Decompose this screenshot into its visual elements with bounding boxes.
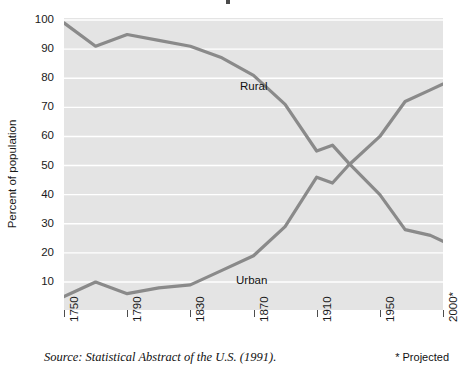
x-axis-tick-mark	[317, 310, 318, 317]
projected-note: * Projected	[395, 351, 449, 363]
plot-area: Rural Urban	[64, 18, 443, 310]
x-axis-tick-label: 2000*	[448, 292, 460, 322]
x-axis-tick-label: 1910	[322, 296, 334, 322]
x-axis-tick-mark	[190, 310, 191, 317]
x-axis-tick-mark	[380, 310, 381, 317]
series-label-rural: Rural	[240, 81, 267, 93]
source-note: Source: Statistical Abstract of the U.S.…	[44, 350, 276, 365]
clipped-title-fragment	[226, 0, 230, 4]
x-axis-tick-mark	[254, 310, 255, 317]
x-axis-tick-mark	[443, 310, 444, 317]
x-axis-tick-label: 1790	[132, 296, 144, 322]
y-axis-tick-label: 10	[0, 276, 54, 288]
x-axis-tick-label: 1870	[259, 296, 271, 322]
series-label-urban: Urban	[236, 275, 267, 287]
y-axis-tick-label: 90	[0, 43, 54, 55]
y-axis-title: Percent of population	[6, 89, 18, 259]
y-axis-tick-label: 100	[0, 14, 54, 26]
x-axis-tick-label: 1830	[195, 296, 207, 322]
x-axis-tick-mark	[127, 310, 128, 317]
y-axis-tick-label: 80	[0, 72, 54, 84]
line-urban	[64, 84, 443, 297]
x-axis-tick-label: 1950	[385, 296, 397, 322]
x-axis-tick-label: 1750	[69, 296, 81, 322]
chart-figure: Rural Urban 102030405060708090100 Percen…	[0, 0, 460, 375]
gridlines-group	[64, 20, 443, 282]
line-rural	[64, 23, 443, 241]
x-axis-tick-mark	[64, 310, 65, 317]
series-lines	[64, 18, 443, 310]
